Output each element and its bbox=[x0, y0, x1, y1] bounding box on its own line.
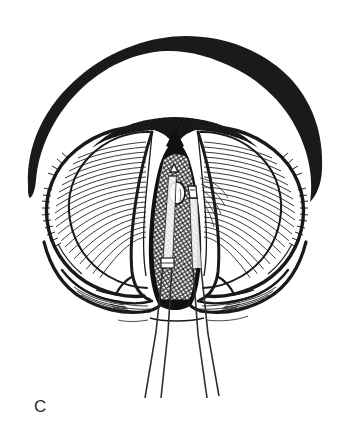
panel-label: C bbox=[34, 398, 47, 415]
figure-panel: C bbox=[0, 0, 350, 442]
illustration-canvas bbox=[0, 0, 350, 442]
